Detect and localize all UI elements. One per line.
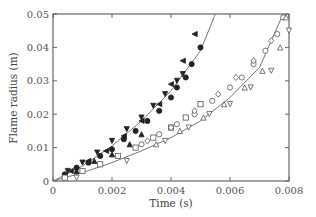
- data-point: [157, 132, 162, 137]
- data-point: [109, 138, 114, 143]
- data-point: [216, 91, 221, 97]
- data-point: [124, 127, 129, 132]
- data-point: [157, 108, 162, 113]
- data-point: [74, 175, 79, 180]
- y-tick-label: 0: [43, 176, 49, 187]
- data-point: [260, 68, 265, 73]
- data-point: [98, 153, 103, 158]
- data-point: [98, 162, 103, 167]
- data-point: [248, 85, 253, 90]
- data-point: [163, 92, 168, 97]
- data-point: [124, 158, 129, 163]
- y-tick-label: 0.03: [27, 75, 49, 86]
- data-point: [151, 135, 156, 140]
- x-axis-label: Time (s): [149, 197, 192, 209]
- x-tick-label: 0.008: [275, 185, 304, 196]
- y-tick-label: 0.04: [27, 42, 49, 53]
- data-point: [192, 31, 197, 36]
- data-point: [207, 112, 212, 117]
- data-point: [278, 45, 283, 50]
- data-point: [198, 102, 203, 107]
- data-point: [104, 148, 109, 153]
- data-point: [198, 45, 203, 50]
- data-point: [154, 142, 159, 147]
- data-point: [180, 58, 185, 63]
- data-point: [269, 68, 274, 73]
- data-point: [275, 31, 280, 36]
- data-point: [263, 48, 268, 53]
- data-point: [139, 132, 144, 137]
- data-point: [168, 95, 173, 100]
- y-axis-label: Flame radius (m): [7, 52, 19, 143]
- data-point: [62, 175, 67, 180]
- fit-line: [53, 14, 215, 181]
- data-point: [183, 115, 188, 120]
- x-tick-label: 0.004: [157, 185, 186, 196]
- data-point: [145, 118, 150, 123]
- data-point: [80, 168, 85, 173]
- data-point: [239, 75, 244, 80]
- x-tick-label: 0.002: [98, 185, 127, 196]
- data-point: [115, 153, 120, 158]
- data-point: [227, 102, 232, 107]
- y-tick-label: 0.05: [27, 9, 49, 20]
- x-tick-label: 0.006: [216, 185, 245, 196]
- data-point: [133, 145, 138, 150]
- data-point: [168, 82, 173, 87]
- data-point: [145, 138, 150, 144]
- y-tick-label: 0.01: [27, 142, 49, 153]
- data-point: [174, 122, 179, 127]
- data-point: [242, 85, 247, 90]
- data-point: [133, 128, 138, 133]
- data-point: [189, 62, 194, 67]
- data-point: [139, 142, 144, 147]
- data-point: [210, 98, 215, 103]
- data-points: [62, 15, 291, 181]
- data-point: [227, 85, 232, 90]
- data-point: [269, 38, 274, 44]
- data-point: [183, 75, 188, 80]
- data-point: [109, 152, 114, 157]
- flame-radius-chart: 00.0020.0040.0060.00800.010.020.030.040.…: [0, 0, 316, 217]
- axis-ticks: 00.0020.0040.0060.00800.010.020.030.040.…: [27, 9, 304, 197]
- data-point: [286, 28, 291, 33]
- data-point: [233, 74, 238, 80]
- x-tick-label: 0: [50, 185, 56, 196]
- data-point: [174, 85, 179, 90]
- y-tick-label: 0.02: [27, 109, 49, 120]
- data-point: [186, 125, 191, 130]
- data-point: [177, 128, 182, 133]
- data-point: [127, 142, 132, 147]
